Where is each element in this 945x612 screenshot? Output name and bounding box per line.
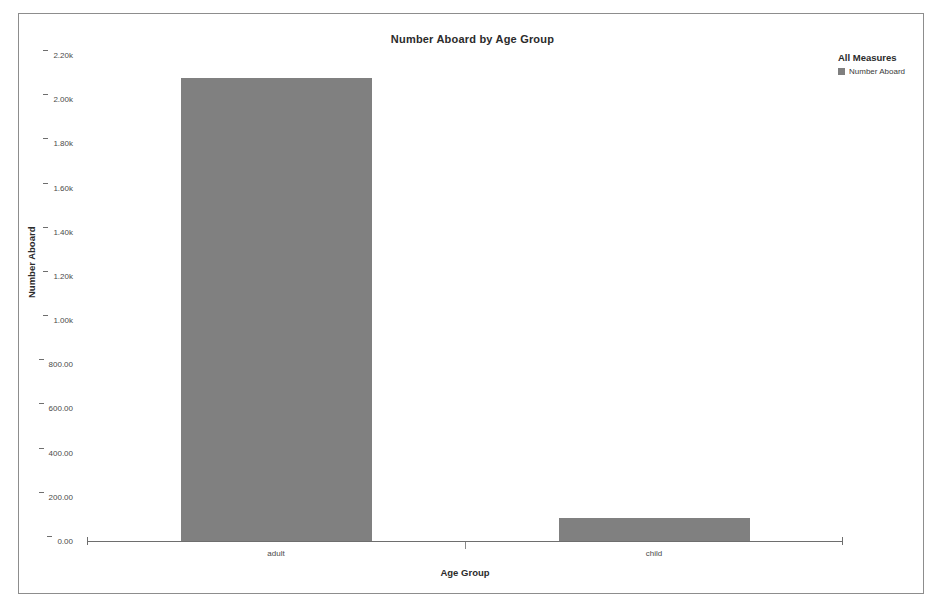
y-axis-tick-label: 800.00: [49, 360, 87, 369]
chart-legend: All Measures Number Aboard: [838, 52, 938, 76]
y-axis-tick-mark: [43, 138, 48, 139]
y-axis-tick-label: 2.00k: [53, 95, 87, 104]
y-axis-tick-label: 1.00k: [53, 316, 87, 325]
y-axis-tick-mark: [43, 183, 48, 184]
y-axis-tick-label: 400.00: [49, 448, 87, 457]
y-axis-title: Number Aboard: [26, 227, 37, 298]
x-axis-label-adult: adult: [267, 549, 284, 558]
legend-item-label: Number Aboard: [849, 67, 905, 76]
y-axis-tick-mark: [39, 492, 44, 493]
legend-item-number-aboard[interactable]: Number Aboard: [838, 67, 938, 76]
y-axis-tick-mark: [39, 403, 44, 404]
bar-adult[interactable]: [181, 78, 372, 541]
y-axis-tick-label: 0.00: [57, 537, 87, 546]
y-axis-tick-mark: [43, 271, 48, 272]
y-axis-tick-label: 600.00: [49, 404, 87, 413]
bar-child[interactable]: [559, 518, 750, 541]
y-axis-tick-mark: [43, 50, 48, 51]
y-axis-tick-label: 2.20k: [53, 51, 87, 60]
y-axis-tick-mark: [43, 315, 48, 316]
y-axis-tick-label: 1.60k: [53, 183, 87, 192]
y-axis-tick-label: 1.20k: [53, 271, 87, 280]
y-axis-tick-label: 1.80k: [53, 139, 87, 148]
x-axis-label-child: child: [646, 549, 662, 558]
x-axis-title: Age Group: [87, 567, 843, 578]
y-axis-tick-mark: [39, 448, 44, 449]
y-axis-tick-mark: [43, 94, 48, 95]
y-axis-tick-mark: [43, 227, 48, 228]
x-axis-end-tick: [842, 537, 843, 545]
y-axis-tick-label: 200.00: [49, 492, 87, 501]
x-axis-category-divider-tick: [465, 542, 466, 549]
plot-area: 2.20k2.00k1.80k1.60k1.40k1.20k1.00k800.0…: [87, 55, 843, 541]
chart-title: Number Aboard by Age Group: [0, 33, 945, 45]
y-axis-tick-mark: [47, 536, 52, 537]
y-axis-tick-mark: [39, 359, 44, 360]
bar-chart: Number Aboard by Age Group All Measures …: [0, 0, 945, 612]
legend-title: All Measures: [838, 52, 938, 63]
y-axis-tick-label: 1.40k: [53, 227, 87, 236]
